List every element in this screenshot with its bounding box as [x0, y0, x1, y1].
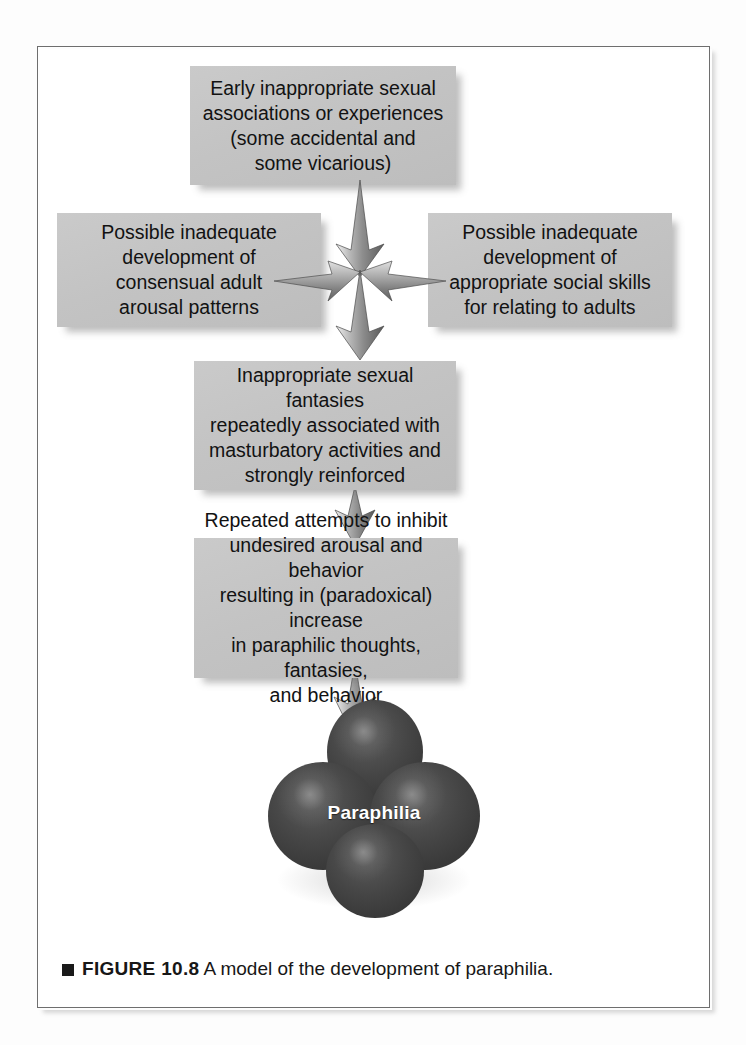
- node-line: some vicarious): [255, 152, 392, 174]
- node-box-social-skills: Possible inadequate development of appro…: [428, 213, 672, 327]
- node-line: (some accidental and: [230, 127, 415, 149]
- node-line: Possible inadequate: [462, 221, 638, 243]
- node-line: resulting in (paradoxical) increase: [220, 584, 432, 631]
- figure-caption: FIGURE 10.8 A model of the development o…: [62, 958, 692, 980]
- node-line: associations or experiences: [203, 102, 444, 124]
- node-line: arousal patterns: [119, 296, 259, 318]
- node-box-text: Inappropriate sexual fantasies repeatedl…: [204, 363, 446, 488]
- figure-number: FIGURE 10.8: [82, 958, 199, 979]
- node-line: in paraphilic thoughts, fantasies,: [231, 634, 421, 681]
- circle-lobe-bottom: [326, 824, 424, 918]
- node-box-text: Possible inadequate development of conse…: [67, 220, 311, 320]
- node-box-text: Possible inadequate development of appro…: [438, 220, 662, 320]
- node-line: strongly reinforced: [245, 464, 405, 486]
- node-box-repeated-attempts-inhibit: Repeated attempts to inhibit undesired a…: [194, 538, 458, 678]
- figure-caption-text: A model of the development of paraphilia…: [199, 958, 553, 979]
- node-paraphilia-cluster: Paraphilia: [268, 700, 480, 918]
- node-box-early-associations: Early inappropriate sexual associations …: [190, 66, 456, 185]
- node-line: Possible inadequate: [101, 221, 277, 243]
- node-line: undesired arousal and behavior: [230, 534, 423, 581]
- node-line: masturbatory activities and: [209, 439, 441, 461]
- node-line: consensual adult: [116, 271, 262, 293]
- square-bullet-icon: [62, 964, 74, 976]
- node-line: development of: [122, 246, 255, 268]
- node-box-text: Early inappropriate sexual associations …: [200, 76, 446, 176]
- node-box-text: Repeated attempts to inhibit undesired a…: [204, 508, 448, 708]
- figure-container: the development of paraphilia an extensi…: [0, 0, 746, 1045]
- paraphilia-label: Paraphilia: [268, 802, 480, 824]
- node-box-fantasies-reinforced: Inappropriate sexual fantasies repeatedl…: [194, 361, 456, 490]
- node-line: appropriate social skills: [449, 271, 651, 293]
- node-line: Inappropriate sexual fantasies: [237, 364, 414, 411]
- node-line: for relating to adults: [464, 296, 635, 318]
- node-line: Repeated attempts to inhibit: [205, 509, 448, 531]
- node-line: repeatedly associated with: [210, 414, 440, 436]
- node-line: development of: [483, 246, 616, 268]
- node-line: Early inappropriate sexual: [210, 77, 435, 99]
- node-box-consensual-arousal: Possible inadequate development of conse…: [57, 213, 321, 327]
